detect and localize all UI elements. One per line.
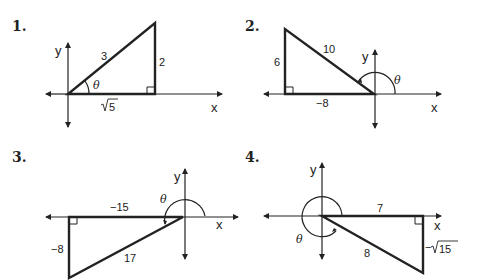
angle-theta-label: θ: [296, 233, 303, 246]
adjacent-label: −8: [316, 97, 329, 109]
figure-2: 2. θ 10 6 −8 y x: [245, 18, 441, 128]
opposite-label: 2: [159, 56, 165, 68]
figure-number: 1.: [12, 18, 27, 34]
x-axis-label: x: [216, 217, 223, 232]
opposite-label: − 15: [425, 241, 458, 255]
right-triangle: [322, 216, 423, 273]
svg-text:15: 15: [439, 243, 451, 255]
right-triangle: [285, 29, 374, 94]
y-axis-label: y: [174, 169, 181, 184]
y-axis-label: y: [310, 162, 317, 177]
figure-1: 1. θ 3 2 5 y x: [12, 18, 222, 127]
x-axis-label: x: [434, 218, 441, 233]
figure-number: 4.: [245, 149, 260, 165]
right-triangle: [69, 217, 183, 278]
angle-theta-label: θ: [160, 193, 167, 206]
right-triangle: [68, 23, 155, 94]
angle-arc: [358, 72, 395, 94]
angle-arc: [85, 81, 89, 94]
y-axis-label: y: [362, 49, 369, 64]
angle-theta-label: θ: [93, 79, 100, 92]
adjacent-label: −15: [110, 201, 129, 213]
figure-4: 4. θ 7 8 − 15 y x: [245, 149, 458, 273]
svg-text:−: −: [425, 241, 431, 253]
diagram-canvas: 1. θ 3 2 5 y x 2. θ 10 6 −8 y: [0, 0, 477, 280]
hypotenuse-label: 10: [323, 43, 335, 55]
figure-number: 3.: [12, 149, 27, 165]
arc-arrowhead-icon: [163, 220, 167, 225]
hypotenuse-label: 3: [101, 50, 107, 62]
hypotenuse-label: 17: [124, 252, 136, 264]
svg-text:5: 5: [109, 101, 115, 113]
opposite-label: 6: [274, 56, 280, 68]
y-axis-label: y: [55, 43, 62, 58]
figure-3: 3. θ −15 −8 17 y x: [12, 149, 238, 278]
hypotenuse-label: 8: [364, 247, 370, 259]
opposite-label: −8: [51, 243, 64, 255]
figure-number: 2.: [245, 18, 260, 34]
adjacent-label: 5: [101, 99, 118, 113]
adjacent-label: 7: [377, 202, 383, 214]
angle-theta-label: θ: [394, 74, 401, 87]
x-axis-label: x: [431, 100, 438, 115]
x-axis-label: x: [211, 100, 218, 115]
